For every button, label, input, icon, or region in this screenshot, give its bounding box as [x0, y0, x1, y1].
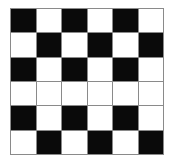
grid-cell-r1-c5	[139, 33, 164, 56]
grid-cell-r4-c2	[62, 106, 87, 129]
grid-cell-r2-c5	[139, 58, 164, 81]
grid-cell-r4-c0	[11, 106, 36, 129]
grid-cell-r3-c3	[88, 82, 113, 105]
grid-cell-r3-c1	[37, 82, 62, 105]
grid-cell-r0-c5	[139, 9, 164, 32]
grid-cell-r0-c2	[62, 9, 87, 32]
grid-cell-r5-c2	[62, 131, 87, 154]
grid-cell-r1-c3	[88, 33, 113, 56]
grid-cell-r5-c3	[88, 131, 113, 154]
grid-cell-r4-c3	[88, 106, 113, 129]
grid-cell-r5-c0	[11, 131, 36, 154]
grid-cell-r1-c0	[11, 33, 36, 56]
grid-cell-r2-c2	[62, 58, 87, 81]
grid-cell-r3-c0	[11, 82, 36, 105]
grid-cell-r5-c1	[37, 131, 62, 154]
grid-cell-r0-c1	[37, 9, 62, 32]
grid-cell-r3-c2	[62, 82, 87, 105]
grid-cell-r3-c4	[113, 82, 138, 105]
grid-cell-r1-c2	[62, 33, 87, 56]
grid-cell-r2-c0	[11, 58, 36, 81]
grid-cell-r2-c1	[37, 58, 62, 81]
grid-cell-r5-c4	[113, 131, 138, 154]
grid-cell-r4-c4	[113, 106, 138, 129]
grid-cell-r3-c5	[139, 82, 164, 105]
grid-cell-r0-c4	[113, 9, 138, 32]
grid-cell-r4-c1	[37, 106, 62, 129]
grid-cell-r2-c4	[113, 58, 138, 81]
grid-cell-r2-c3	[88, 58, 113, 81]
grid-cell-r4-c5	[139, 106, 164, 129]
grid-cell-r0-c0	[11, 9, 36, 32]
grid-cell-r5-c5	[139, 131, 164, 154]
checkerboard-grid	[10, 8, 164, 155]
grid-cell-r1-c1	[37, 33, 62, 56]
grid-cell-r1-c4	[113, 33, 138, 56]
grid-cell-r0-c3	[88, 9, 113, 32]
